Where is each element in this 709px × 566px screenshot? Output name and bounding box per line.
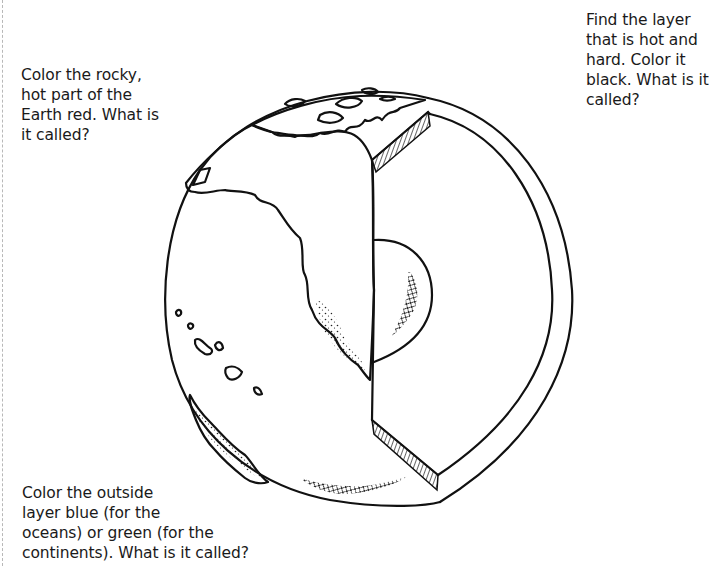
island — [176, 310, 181, 316]
island — [215, 342, 223, 350]
continent-stipple — [315, 300, 368, 372]
island — [336, 98, 362, 108]
island — [380, 97, 395, 101]
cutaway-rim-inner — [430, 114, 552, 475]
island — [318, 112, 343, 123]
core-shading — [392, 270, 417, 336]
island — [285, 99, 305, 106]
hatched-crust-section-bottom — [372, 420, 438, 490]
globe-bottom-shading — [300, 476, 408, 494]
island — [254, 387, 262, 394]
cutaway-rim-outer — [428, 98, 572, 502]
hatched-crust-section-top — [372, 112, 430, 172]
island — [195, 339, 212, 354]
inner-core-sphere — [374, 240, 432, 362]
island — [225, 367, 242, 380]
island — [188, 324, 193, 329]
